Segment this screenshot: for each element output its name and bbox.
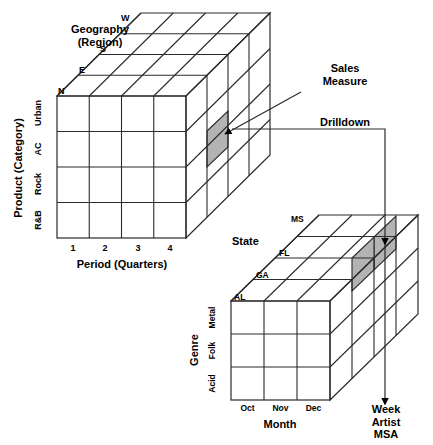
cube-top-horizontal-tick-1: 1 <box>60 243 86 253</box>
cube-bottom-depth-tick-fl: FL <box>279 249 289 259</box>
cube-bottom-vertical-tick-acid: Acid <box>208 367 218 400</box>
cube-bottom-depth-tick-ms: MS <box>291 215 304 225</box>
cube-top-vertical-tick-rock: Rock <box>33 166 43 202</box>
cube-top-vertical-tick-rnb: R&B <box>33 202 43 238</box>
cube-bottom-vertical-tick-metal: Metal <box>208 301 218 334</box>
cube-top-horizontal-tick-4: 4 <box>157 243 183 253</box>
cube-bottom-horizontal-tick-nov: Nov <box>267 404 294 414</box>
cube-bottom-vertical-axis-label: Genre <box>188 300 201 400</box>
highlighted-cell-top <box>207 111 228 167</box>
cube-top-horizontal-tick-2: 2 <box>92 243 118 253</box>
highlighted-cell-bottom-front <box>352 237 374 291</box>
cube-bottom-depth-axis-label: State <box>232 235 259 248</box>
drilldown-callout: Drilldown <box>300 116 390 129</box>
next-level-week: Week <box>355 403 417 416</box>
cube-top-vertical-tick-urban: Urban <box>33 95 43 131</box>
sales-measure-leader <box>225 92 301 134</box>
next-level-msa: MSA <box>355 428 417 441</box>
sales-measure-callout: Sales Measure <box>305 62 385 87</box>
cube-bottom-geometry <box>231 215 418 400</box>
cube-bottom-depth-tick-ga: GA <box>256 271 269 281</box>
drilldown-connector <box>232 129 385 222</box>
cube-bottom-horizontal-tick-oct: Oct <box>234 404 261 414</box>
diagram-canvas: Geography (Region) N E S W Product (Cate… <box>0 0 433 445</box>
cube-top-depth-tick-e: E <box>79 65 85 75</box>
cube-top-depth-tick-n: N <box>58 86 65 96</box>
cube-top-depth-tick-w: W <box>121 13 130 23</box>
next-levels-callout: Week Artist MSA <box>355 403 417 441</box>
cube-top-horizontal-tick-3: 3 <box>125 243 151 253</box>
cube-bottom-horizontal-tick-dec: Dec <box>300 404 327 414</box>
cube-top-depth-tick-s: S <box>100 44 106 54</box>
cube-bottom-depth-tick-al: AL <box>234 293 245 303</box>
next-level-artist: Artist <box>355 416 417 429</box>
sales-measure-callout-line2: Measure <box>305 75 385 88</box>
cube-top-vertical-axis-label: Product (Category) <box>12 93 25 243</box>
cube-bottom-vertical-tick-folk: Folk <box>208 334 218 367</box>
cube-bottom-horizontal-axis-label: Month <box>240 418 320 431</box>
cube-top-vertical-tick-ac: AC <box>33 131 43 167</box>
cube-top-horizontal-axis-label: Period (Quarters) <box>52 258 192 271</box>
cube-top-depth-axis-label-line1: Geography <box>55 23 145 36</box>
sales-measure-callout-line1: Sales <box>305 62 385 75</box>
